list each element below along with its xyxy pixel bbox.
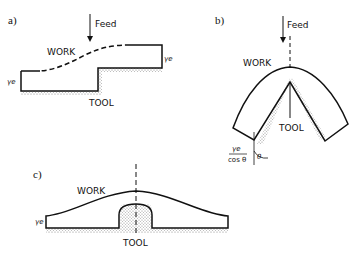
panel-a: a) Feed WORK TOOL γe γe <box>7 14 172 108</box>
tool-surface-b-left <box>257 78 290 144</box>
panel-b: b) Feed TOOL WORK θ γe cos θ <box>215 14 348 165</box>
work-label-b: WORK <box>243 58 272 68</box>
tool-label-b: TOOL <box>278 123 304 133</box>
tool-label-a: TOOL <box>88 98 114 108</box>
work-label-a: WORK <box>47 47 76 57</box>
feed-arrow-icon <box>280 16 286 43</box>
panel-a-label: a) <box>8 14 17 27</box>
tool-label-c: TOOL <box>122 238 148 248</box>
panel-c: c) WORK TOOL γe <box>33 164 228 248</box>
angle-label-b: θ <box>257 153 262 161</box>
thickness-right-a: γe <box>164 55 172 63</box>
work-label-c: WORK <box>77 186 106 196</box>
panel-b-label: b) <box>215 14 225 27</box>
panel-c-label: c) <box>33 168 42 181</box>
thickness-left-a: γe <box>7 78 15 86</box>
diagram-canvas: a) Feed WORK TOOL γe γe b) Feed <box>0 0 360 253</box>
feed-label-a: Feed <box>95 19 116 29</box>
thickness-left-c: γe <box>35 218 43 226</box>
thickness-numerator-b: γe <box>232 145 240 153</box>
work-outline-a <box>21 45 162 91</box>
thickness-denominator-b: cos θ <box>228 156 246 164</box>
feed-label-b: Feed <box>287 20 308 30</box>
feed-arrow-icon <box>87 14 93 42</box>
